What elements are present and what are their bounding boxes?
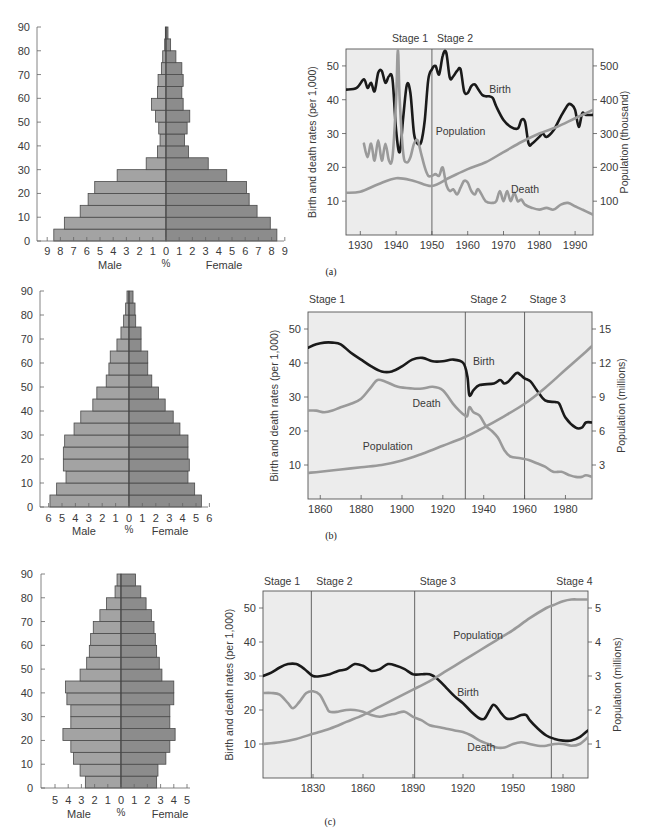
female-bar [166, 182, 247, 194]
percent-tick-label: 5 [193, 512, 199, 524]
x-tick-label: 1860 [351, 782, 375, 794]
percent-tick-label: 5 [97, 245, 103, 257]
stage-label: Stage 1 [392, 32, 428, 44]
x-tick-label: 1940 [471, 503, 495, 515]
percent-tick-label: 4 [171, 794, 177, 806]
female-bar [166, 217, 270, 229]
percent-tick-label: 5 [52, 794, 58, 806]
percent-tick-label: 5 [59, 512, 65, 524]
male-bar [115, 586, 121, 598]
y2-tick-label: 100 [600, 195, 618, 207]
percent-tick-label: 1 [113, 512, 119, 524]
female-bar [121, 657, 159, 669]
female-bar [129, 339, 141, 351]
y-axis-title: Birth and death rates (per 1,000) [268, 330, 280, 482]
female-bar [129, 351, 148, 363]
demographic-transition-figure: 01020304050607080909876543210123456789Ma… [0, 0, 647, 839]
male-bar [64, 217, 166, 229]
female-bar [166, 122, 187, 134]
percent-label: % [117, 807, 126, 818]
stage-label: Stage 3 [420, 575, 456, 587]
female-bar [166, 134, 184, 146]
y-tick-label: 10 [244, 738, 256, 750]
male-bar [155, 110, 166, 122]
female-bar [121, 598, 146, 610]
male-bar [71, 717, 121, 729]
male-bar [71, 740, 121, 752]
female-bar [129, 375, 152, 387]
female-bar [121, 622, 154, 634]
series-label-population: Population [453, 629, 503, 641]
percent-tick-label: 3 [203, 245, 209, 257]
age-tick-label: 60 [18, 92, 30, 104]
male-bar [126, 303, 129, 315]
y-tick-label: 50 [244, 602, 256, 614]
male-bar [93, 622, 121, 634]
y2-axis-title: Population (millions) [611, 637, 623, 732]
male-bar [89, 645, 121, 657]
series-label-death: Death [467, 741, 495, 753]
x-tick-label: 1900 [390, 503, 414, 515]
x-tick-label: 1980 [553, 503, 577, 515]
percent-tick-label: 5 [229, 245, 235, 257]
female-bar [166, 146, 188, 158]
age-tick-label: 20 [21, 734, 33, 746]
female-bar [129, 363, 148, 375]
series-label-birth: Birth [457, 686, 479, 698]
x-tick-label: 1990 [563, 239, 587, 251]
x-tick-label: 1980 [551, 782, 575, 794]
population-pyramid-c: 010203040506070809054321012345Male%Femal… [21, 568, 190, 820]
male-bar [85, 776, 121, 788]
age-tick-label: 30 [21, 711, 33, 723]
rates-chart-a: Stage 1Stage 210203040501002003004005001… [306, 32, 630, 251]
age-tick-label: 60 [21, 639, 33, 651]
y-tick-label: 50 [327, 60, 339, 72]
female-bar [121, 645, 157, 657]
age-tick-label: 90 [21, 568, 33, 580]
male-bar [73, 752, 121, 764]
age-tick-label: 70 [21, 616, 33, 628]
x-tick-label: 1860 [308, 503, 332, 515]
y-tick-label: 20 [289, 425, 301, 437]
percent-tick-label: 2 [137, 245, 143, 257]
female-bar [166, 86, 182, 98]
female-bar [121, 717, 170, 729]
percent-tick-label: 7 [71, 245, 77, 257]
y2-tick-label: 2 [595, 704, 601, 716]
percent-tick-label: 3 [78, 794, 84, 806]
stage-label: Stage 1 [309, 293, 345, 305]
female-label: Female [206, 259, 243, 271]
female-bar [121, 776, 157, 788]
y2-tick-label: 500 [600, 60, 618, 72]
percent-tick-label: 2 [99, 512, 105, 524]
male-bar [88, 193, 166, 205]
female-bar [129, 495, 201, 507]
male-bar [117, 574, 121, 586]
female-bar [166, 158, 208, 170]
age-tick-label: 80 [21, 309, 33, 321]
female-bar [166, 39, 171, 51]
age-tick-label: 90 [18, 21, 30, 33]
female-bar [121, 693, 174, 705]
female-bar [121, 764, 158, 776]
x-tick-label: 1880 [349, 503, 373, 515]
y2-tick-label: 12 [599, 357, 611, 369]
x-tick-label: 1960 [512, 503, 536, 515]
percent-tick-label: 9 [44, 245, 50, 257]
male-bar [91, 633, 121, 645]
percent-tick-label: 6 [84, 245, 90, 257]
series-label-birth: Birth [489, 83, 511, 95]
x-tick-label: 1940 [384, 239, 408, 251]
stage-label: Stage 2 [316, 575, 352, 587]
age-tick-label: 20 [18, 187, 30, 199]
male-bar [65, 435, 129, 447]
y2-axis-title: Population (thousand) [618, 91, 630, 194]
y2-tick-label: 3 [595, 670, 601, 682]
age-tick-label: 70 [21, 333, 33, 345]
male-bar [66, 471, 129, 483]
female-bar [121, 681, 174, 693]
male-bar [121, 327, 129, 339]
percent-label: % [162, 258, 171, 269]
female-bar [121, 574, 136, 586]
percent-tick-label: 7 [255, 245, 261, 257]
